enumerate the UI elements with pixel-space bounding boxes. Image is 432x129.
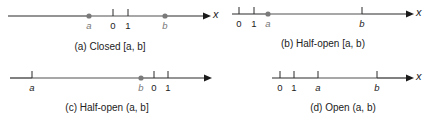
label-a: a (29, 82, 34, 93)
caption: (c) Half-open (a, b] (65, 102, 148, 113)
axis-variable-label: x (416, 6, 422, 18)
arrow-head-icon (203, 13, 211, 20)
label-one: 1 (251, 18, 256, 29)
label-zero: 0 (236, 18, 241, 29)
label-a: a (265, 18, 270, 29)
number-line (0, 0, 216, 65)
panel-half-open-right-interval: 0 1 a b x (b) Half-open [a, b) (216, 0, 432, 65)
number-line (216, 65, 432, 129)
closed-endpoint-b-icon (162, 13, 167, 18)
label-zero: 0 (110, 20, 115, 31)
arrow-head-icon (406, 11, 414, 18)
closed-endpoint-a-icon (86, 13, 91, 18)
panel-open-interval: 0 1 a b x (d) Open (a, b) (216, 65, 432, 129)
panel-closed-interval: a 0 1 b x (a) Closed [a, b] (0, 0, 216, 65)
caption: (b) Half-open [a, b) (281, 38, 365, 49)
arrow-head-icon (406, 75, 414, 82)
label-b: b (162, 20, 167, 31)
caption: (a) Closed [a, b] (74, 41, 145, 52)
panel-half-open-left-interval: a b 0 1 (c) Half-open (a, b] (0, 65, 216, 129)
label-one: 1 (125, 20, 130, 31)
label-zero: 0 (151, 82, 156, 93)
label-b: b (374, 82, 379, 93)
arrow-head-icon (204, 75, 212, 82)
label-one: 1 (165, 82, 170, 93)
closed-endpoint-b-icon (138, 75, 143, 80)
closed-endpoint-a-icon (265, 11, 270, 16)
label-one: 1 (291, 82, 296, 93)
number-line (0, 65, 216, 129)
label-a: a (315, 82, 320, 93)
label-b: b (359, 18, 364, 29)
label-a: a (86, 20, 91, 31)
label-zero: 0 (277, 82, 282, 93)
axis-variable-label: x (416, 70, 422, 82)
caption: (d) Open (a, b) (310, 102, 376, 113)
label-b: b (138, 82, 143, 93)
number-line (216, 0, 432, 65)
